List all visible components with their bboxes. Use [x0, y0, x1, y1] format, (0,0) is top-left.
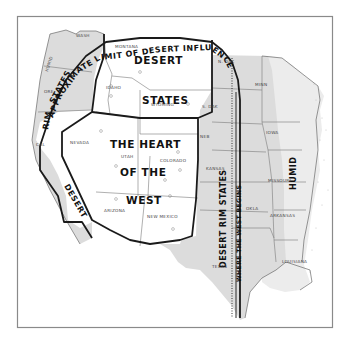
state-arkansas: ARKANSAS — [270, 213, 295, 218]
state-minn: MINN — [255, 82, 267, 87]
state-okla: OKLA — [246, 206, 259, 211]
humid-east-label: HUMID — [289, 157, 298, 190]
state-neb: NEB — [200, 134, 210, 139]
state-colorado: COLORADO — [160, 158, 187, 163]
state-wyoming: WYOMING — [151, 102, 174, 107]
state-cal: CAL — [36, 142, 45, 147]
state-kansas: KANSAS — [206, 166, 225, 171]
map-figure: DESERT STATES THE HEART OF THE WEST APPR… — [0, 0, 350, 344]
desert-rim-states-east-label: DESERT RIM STATES — [219, 169, 228, 268]
state-wash: WASH — [76, 33, 90, 38]
state-montana: MONTANA — [115, 44, 138, 49]
state-louisiana: LOUISIANA — [282, 259, 307, 264]
state-arizona: ARIZONA — [104, 208, 125, 213]
heart-label-2: OF THE — [120, 166, 166, 178]
heart-label-1: THE HEART — [110, 138, 181, 150]
state-nevada: NEVADA — [70, 140, 89, 145]
state-ore: ORE — [44, 89, 54, 94]
state-texas: TEXAS — [211, 264, 227, 269]
where-west-begins-label: WHERE THE WEST BEGINS — [235, 185, 242, 282]
heart-label-3: WEST — [126, 194, 162, 206]
state-missouri: MISSOURI — [268, 178, 291, 183]
state-idaho: IDAHO — [106, 85, 122, 90]
state-iowa: IOWA — [266, 130, 279, 135]
state-s-dak: S. DAK — [202, 104, 218, 109]
state-n-dak: N. DAK — [218, 59, 234, 64]
state-utah: UTAH — [121, 154, 134, 159]
state-new-mexico: NEW MEXICO — [147, 214, 178, 219]
